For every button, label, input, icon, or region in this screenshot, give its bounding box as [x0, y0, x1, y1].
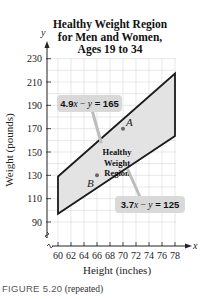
svg-text:Healthy: Healthy	[103, 147, 133, 157]
svg-text:Height (inches): Height (inches)	[83, 264, 151, 277]
figure-number: FIGURE 5.20	[2, 283, 62, 294]
svg-text:Ages 19 to 34: Ages 19 to 34	[78, 43, 143, 56]
svg-text:230: 230	[27, 53, 42, 64]
svg-text:190: 190	[27, 100, 42, 111]
svg-text:for Men and Women,: for Men and Women,	[58, 31, 162, 43]
svg-text:74: 74	[144, 250, 154, 261]
svg-text:66: 66	[92, 250, 102, 261]
svg-text:B: B	[87, 177, 94, 189]
svg-text:210: 210	[27, 77, 42, 88]
svg-text:76: 76	[157, 250, 167, 261]
svg-text:78: 78	[170, 250, 180, 261]
svg-text:Weight: Weight	[104, 158, 130, 168]
svg-text:x: x	[192, 240, 198, 251]
healthy-weight-region	[58, 74, 175, 214]
svg-text:Weight (pounds): Weight (pounds)	[3, 113, 16, 187]
svg-text:64: 64	[79, 250, 89, 261]
svg-text:130: 130	[27, 170, 42, 181]
svg-text:110: 110	[27, 193, 42, 204]
chart: 6062646668707274767890110130150170190210…	[0, 0, 204, 299]
svg-text:3.7x − y = 125: 3.7x − y = 125	[121, 199, 180, 210]
svg-text:72: 72	[131, 250, 141, 261]
svg-text:70: 70	[118, 250, 128, 261]
svg-text:Region: Region	[104, 168, 130, 178]
svg-text:A: A	[125, 116, 133, 128]
svg-text:4.9x − y = 165: 4.9x − y = 165	[60, 98, 119, 109]
figure-note: (repeated)	[65, 284, 104, 294]
svg-text:170: 170	[27, 123, 42, 134]
figure-caption: FIGURE 5.20 (repeated)	[2, 283, 103, 294]
svg-text:y: y	[40, 27, 46, 38]
svg-text:62: 62	[66, 250, 76, 261]
svg-text:Healthy Weight Region: Healthy Weight Region	[53, 18, 168, 31]
svg-text:90: 90	[32, 217, 42, 228]
svg-text:150: 150	[27, 147, 42, 158]
svg-text:68: 68	[105, 250, 115, 261]
svg-text:60: 60	[53, 250, 63, 261]
